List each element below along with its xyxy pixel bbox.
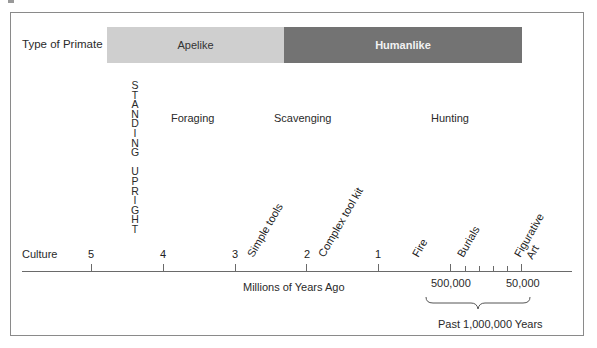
scavenging-label: Scavenging <box>274 112 332 124</box>
tick-2 <box>306 264 307 271</box>
figure-marker <box>8 0 14 3</box>
hunting-label: Hunting <box>431 112 469 124</box>
tick-3 <box>235 264 236 271</box>
minor-tick <box>493 266 494 271</box>
minor-tick <box>465 266 466 271</box>
tick-1 <box>378 264 379 271</box>
inset-tick-500000: 500,000 <box>431 277 471 289</box>
tick-500000 <box>450 264 451 271</box>
type-of-primate-label: Type of Primate <box>22 38 103 50</box>
inset-caption: Past 1,000,000 Years <box>438 318 543 330</box>
standing-upright-label: STANDINGUPRIGHT <box>130 81 140 235</box>
tick-4 <box>163 264 164 271</box>
tick-label-2: 2 <box>304 248 310 260</box>
minor-tick <box>507 266 508 271</box>
apelike-bar: Apelike <box>107 27 284 63</box>
tick-label-4: 4 <box>160 248 166 260</box>
tick-50000 <box>521 264 522 271</box>
inset-tick-50000: 50,000 <box>506 277 540 289</box>
axis-title: Millions of Years Ago <box>243 281 345 293</box>
tick-label-5: 5 <box>88 248 94 260</box>
brace-icon <box>425 296 531 312</box>
foraging-label: Foraging <box>171 112 214 124</box>
apelike-label: Apelike <box>177 39 213 51</box>
tick-label-1: 1 <box>375 248 381 260</box>
time-axis <box>22 271 572 272</box>
humanlike-label: Humanlike <box>375 39 431 51</box>
tick-label-3: 3 <box>232 248 238 260</box>
tick-5 <box>91 264 92 271</box>
humanlike-bar: Humanlike <box>284 27 522 63</box>
culture-label: Culture <box>22 248 57 260</box>
minor-tick <box>479 266 480 271</box>
